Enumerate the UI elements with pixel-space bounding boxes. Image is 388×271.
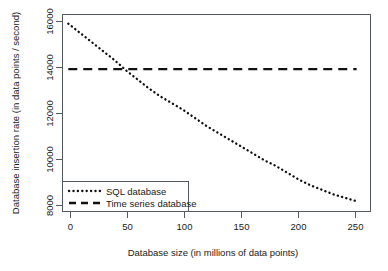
x-axis-title: Database size (in millions of data point… <box>128 247 299 258</box>
x-tick-label: 100 <box>177 221 193 232</box>
chart-plot-area: 16000 14000 12000 10000 8000 Database in… <box>0 0 388 271</box>
y-axis-title: Database insertion rate (in data points … <box>10 12 21 214</box>
y-axis-tick-labels: 16000 14000 12000 10000 8000 <box>44 8 55 216</box>
x-tick-label: 150 <box>234 221 250 232</box>
legend-label-sql-database: SQL database <box>106 186 166 197</box>
y-tick-label: 10000 <box>44 146 55 172</box>
chart-legend[interactable]: SQL database Time series database <box>63 182 197 212</box>
series-line-sql-database <box>68 24 356 202</box>
chart-figure: 16000 14000 12000 10000 8000 Database in… <box>0 0 388 271</box>
y-axis-ticks <box>56 22 63 206</box>
x-tick-label: 200 <box>291 221 307 232</box>
x-tick-label: 50 <box>122 221 133 232</box>
y-tick-label: 16000 <box>44 8 55 34</box>
x-tick-label: 0 <box>68 221 73 232</box>
y-tick-label: 14000 <box>44 54 55 80</box>
x-tick-label: 250 <box>348 221 364 232</box>
x-axis-tick-labels: 0 50 100 150 200 250 <box>68 221 364 232</box>
legend-label-time-series-database: Time series database <box>106 198 196 209</box>
y-tick-label: 12000 <box>44 100 55 126</box>
y-tick-label: 8000 <box>44 195 55 216</box>
x-axis-ticks <box>71 212 356 219</box>
